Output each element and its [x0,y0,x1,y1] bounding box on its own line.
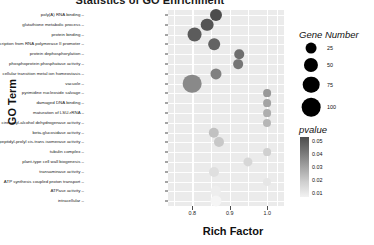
y-axis-tick-mark [165,73,168,74]
y-axis-tick-label: regulation of transcription from RNA pol… [0,42,84,46]
gridline-horizontal [168,201,284,202]
data-point-bubble [263,177,271,185]
y-axis-tick-label: pyrimidine nucleoside salvage – [0,91,84,95]
size-legend-label: 100 [327,104,336,110]
data-point-bubble [187,27,202,42]
y-axis-tick-mark [165,201,168,202]
color-legend-label: 0.03 [312,164,323,170]
y-axis-tick-label: ATPase activity – [0,189,84,193]
y-axis-tick-label: glutathione metabolic process – [0,22,84,26]
y-axis-tick-label: phosphoprotein phosphatase activity – [0,62,84,66]
data-point-bubble [210,68,221,79]
gridline-horizontal [168,35,284,36]
y-axis-tick-label: maturation of LSU-rRNA – [0,111,84,115]
color-legend-gradient-bar [300,137,309,197]
color-legend-label: 0.05 [312,138,323,144]
color-legend-label: 0.01 [312,190,323,196]
y-axis-tick-mark [165,112,168,113]
color-legend-title: pvalue [299,124,327,135]
data-point-bubble [234,49,244,59]
y-axis-tick-label: ATP synthesis coupled proton transport – [0,179,84,183]
gridline-major-vertical [230,10,231,206]
size-legend-dot [302,98,321,117]
gridline-horizontal [168,133,284,134]
data-point-bubble [201,18,214,31]
data-point-bubble [263,119,271,127]
size-legend-label: 50 [327,62,333,68]
y-axis-tick-mark [165,93,168,94]
y-axis-tick-mark [165,161,168,162]
size-legend-label: 25 [327,45,333,51]
y-axis-tick-mark [165,103,168,104]
y-axis-tick-mark [165,54,168,55]
y-axis-tick-label: damaged DNA binding – [0,101,84,105]
y-axis-tick-label: peptidyl-prolyl cis-trans isomerase acti… [0,140,84,144]
go-enrichment-bubble-plot: Statistics of GO Enrichment GO Term Rich… [0,0,374,245]
size-legend-dot [304,58,318,72]
y-axis-tick-label: beta-glucosidase activity – [0,130,84,134]
color-legend-label: 0.02 [312,177,323,183]
y-axis-tick-mark [165,14,168,15]
y-axis-tick-label: vacuole – [0,81,84,85]
chart-title: Statistics of GO Enrichment [0,0,300,6]
x-axis-tick-label: 0.9 [215,210,245,216]
y-axis-tick-mark [165,34,168,35]
y-axis-tick-mark [165,191,168,192]
y-axis-tick-label: protein dephosphorylation – [0,52,84,56]
gridline-horizontal [168,142,284,143]
gridline-horizontal [168,191,284,192]
y-axis-tick-label: poly(A) RNA binding – [0,13,84,17]
x-axis-tick-mark [267,206,268,210]
y-axis-tick-mark [165,44,168,45]
x-axis-tick-mark [192,206,193,210]
y-axis-tick-mark [165,132,168,133]
y-axis-tick-mark [165,142,168,143]
size-legend-title: Gene Number [299,29,359,40]
data-point-bubble [210,196,221,207]
y-axis-tick-label: cellular transition metal ion homeostasi… [0,71,84,75]
y-axis-tick-label: tubulin complex – [0,150,84,154]
y-axis-tick-label: cinnamyl-alcohol dehydrogenase activity … [0,120,84,124]
gridline-horizontal [168,172,284,173]
data-point-bubble [263,99,271,107]
y-axis-tick-label: transaminase activity – [0,169,84,173]
gridline-minor-vertical [248,10,249,206]
y-axis-tick-mark [165,171,168,172]
x-axis-tick-mark [230,206,231,210]
size-legend-dot [306,43,317,54]
y-axis-tick-mark [165,63,168,64]
y-axis-tick-mark [165,122,168,123]
color-legend-label: 0.04 [312,151,323,157]
data-point-bubble [263,148,271,156]
y-axis-tick-label: intracellular – [0,199,84,203]
data-point-bubble [263,109,271,117]
y-axis-tick-label: plant-type cell wall biogenesis – [0,160,84,164]
gridline-horizontal [168,15,284,16]
size-legend-label: 75 [327,82,333,88]
x-axis-title: Rich Factor [133,225,333,237]
gridline-minor-vertical [277,10,278,206]
data-point-bubble [183,74,202,93]
data-point-bubble [208,38,220,50]
y-axis-tick-mark [165,24,168,25]
gridline-horizontal [168,64,284,65]
x-axis-tick-label: 1.0 [252,210,282,216]
gridline-horizontal [168,25,284,26]
y-axis-tick-mark [165,152,168,153]
gridline-horizontal [168,74,284,75]
gridline-minor-vertical [174,10,175,206]
x-axis-tick-label: 0.8 [177,210,207,216]
gridline-horizontal [168,162,284,163]
y-axis-tick-mark [165,83,168,84]
y-axis-tick-label: protein binding – [0,32,84,36]
y-axis-tick-mark [165,181,168,182]
gridline-horizontal [168,44,284,45]
data-point-bubble [263,89,271,97]
gridline-horizontal [168,54,284,55]
size-legend-dot [303,77,320,94]
data-point-bubble [233,59,243,69]
